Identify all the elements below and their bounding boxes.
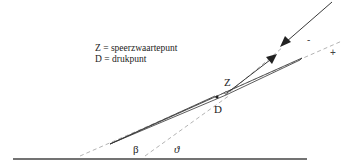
label-plus: +	[330, 47, 336, 58]
javelin-upper-edge	[110, 96, 215, 144]
velocity-direction-dashed-upper	[230, 47, 283, 92]
z-force-arrow-line	[227, 60, 270, 93]
label-theta: ϑ	[174, 143, 179, 155]
label-z: Z	[224, 76, 231, 88]
legend-z: Z = speerzwaartepunt	[95, 43, 177, 54]
legend: Z = speerzwaartepunt D = drukpunt	[95, 43, 177, 65]
air-force-arrowhead	[280, 36, 291, 47]
legend-d: D = drukpunt	[95, 54, 177, 65]
pressure-point-marker	[215, 95, 218, 98]
z-force-arrowhead	[266, 54, 277, 64]
center-of-gravity-marker	[225, 92, 228, 95]
label-minus: -	[307, 34, 310, 45]
label-beta: β	[133, 143, 139, 155]
label-d: D	[214, 103, 222, 115]
